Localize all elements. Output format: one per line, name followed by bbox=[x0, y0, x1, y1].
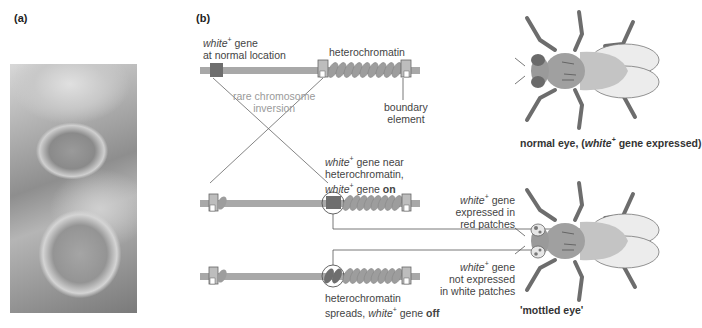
white-gene-box bbox=[210, 63, 223, 77]
eye-normal-lower bbox=[531, 76, 545, 88]
eye-mottled-lower bbox=[531, 246, 545, 258]
label-boundary-element: boundary element bbox=[384, 101, 428, 125]
caption-mottled-eye: 'mottled eye' bbox=[520, 304, 583, 316]
label-white-gene-on: white+ gene near heterochromatin, white+… bbox=[325, 153, 404, 194]
label-not-expressed-white-patches: white+ gene not expressed in white patch… bbox=[440, 258, 515, 297]
heterochromatin-coil bbox=[326, 61, 404, 79]
fly-normal-eye bbox=[515, 12, 659, 128]
label-heterochromatin: heterochromatin bbox=[329, 46, 405, 58]
label-rare-chromosome-inversion: rare chromosome inversion bbox=[233, 90, 315, 114]
eye-normal-upper bbox=[531, 54, 545, 66]
label-white-gene-off: heterochromatin spreads, white+ gene off bbox=[325, 292, 439, 319]
label-white-gene-normal: white+ gene at normal location bbox=[203, 34, 286, 61]
fly-mottled-eye bbox=[515, 183, 659, 300]
label-expressed-red-patches: white+ gene expressed in red patches bbox=[455, 191, 515, 230]
caption-normal-eye: normal eye, (white+ gene expressed) bbox=[520, 136, 702, 149]
eye-mottled-upper bbox=[531, 224, 545, 236]
white-gene-on bbox=[326, 196, 341, 209]
